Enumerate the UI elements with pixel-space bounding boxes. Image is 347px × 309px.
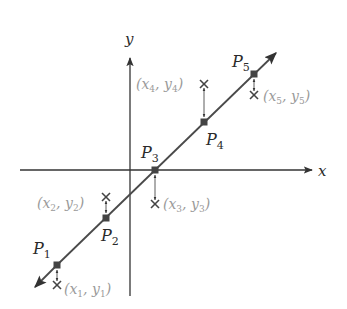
data-point-labels: (x1, y1) (x2, y2) (x3, y3) (x4, y4) (x5,…: [37, 76, 310, 299]
fitted-point-3: [152, 167, 159, 174]
residuals: [57, 79, 254, 281]
label-x3y3: (x3, y3): [163, 196, 210, 214]
data-point-cross-5: [250, 91, 258, 99]
label-x5y5: (x5, y5): [263, 88, 310, 106]
y-axis-label: y: [124, 30, 134, 48]
data-point-cross-1: [53, 281, 61, 289]
label-x2y2: (x2, y2): [37, 195, 84, 213]
fitted-point-5: [251, 71, 258, 78]
label-p4: P4: [205, 130, 224, 152]
label-p2: P2: [100, 226, 119, 248]
label-x4y4: (x4, y4): [136, 76, 183, 94]
label-p1: P1: [32, 239, 51, 261]
regression-diagram: x y P1 P2 P3 P4 P5 (x1, y1) (x2,: [0, 0, 347, 309]
data-point-cross-3: [151, 200, 159, 208]
fitted-point-2: [103, 215, 110, 222]
label-p3: P3: [140, 143, 159, 165]
fitted-point-4: [201, 119, 208, 126]
label-p5: P5: [231, 52, 250, 74]
data-points: [53, 80, 258, 289]
fitted-point-1: [54, 262, 61, 269]
label-x1y1: (x1, y1): [64, 281, 111, 299]
data-point-cross-4: [200, 80, 208, 88]
data-point-cross-2: [102, 193, 110, 201]
x-axis-label: x: [318, 162, 327, 180]
